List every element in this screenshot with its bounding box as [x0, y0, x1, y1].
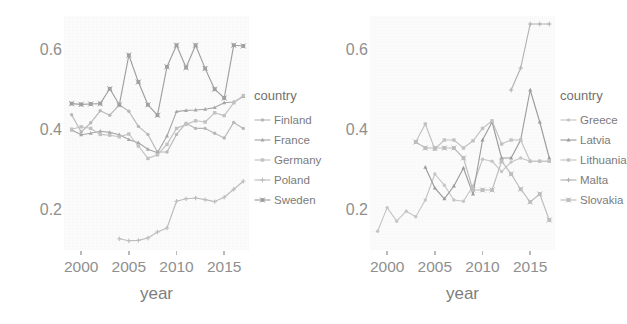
legend-item-poland[interactable]: Poland	[254, 170, 308, 190]
x-axis-tick-mark	[482, 251, 484, 255]
y-axis-tick-label: 0.4	[346, 121, 368, 139]
x-axis-title: year	[64, 284, 249, 304]
square-cross-marker-icon	[560, 193, 577, 207]
triangle-marker-icon	[254, 133, 271, 147]
legend-item-label: Malta	[580, 174, 608, 186]
triangle-marker-icon	[560, 133, 577, 147]
x-axis-tick-mark	[434, 251, 436, 255]
x-axis-tick-mark	[386, 251, 388, 255]
y-axis-tick-labels: 0.60.40.2	[330, 16, 370, 250]
x-axis-tick-labels: 2000200520102015	[370, 258, 555, 282]
x-axis-tick-label: 2010	[465, 258, 499, 276]
x-axis-tick-label: 2015	[513, 258, 547, 276]
x-axis-title: year	[370, 284, 555, 304]
x-axis-tick-mark	[223, 251, 225, 255]
x-axis-tick-label: 2015	[207, 258, 241, 276]
x-axis-tick-label: 2005	[418, 258, 452, 276]
legend-items: GreeceLatviaLithuaniaMaltaSlovakia	[560, 110, 614, 210]
plus-marker-icon	[254, 173, 271, 187]
plot-area	[64, 16, 249, 250]
x-axis-tick-label: 2000	[64, 258, 98, 276]
legend-item-label: Slovakia	[580, 194, 623, 206]
legend: country FinlandFranceGermanyPolandSweden	[254, 88, 308, 210]
x-axis-tick-mark	[529, 251, 531, 255]
legend-item-label: Latvia	[580, 134, 611, 146]
legend-item-france[interactable]: France	[254, 130, 308, 150]
legend: country GreeceLatviaLithuaniaMaltaSlovak…	[560, 88, 614, 210]
legend-item-greece[interactable]: Greece	[560, 110, 614, 130]
legend-item-latvia[interactable]: Latvia	[560, 130, 614, 150]
x-axis-tick-mark	[128, 251, 130, 255]
legend-item-label: Lithuania	[580, 154, 627, 166]
legend-item-label: Poland	[274, 174, 310, 186]
legend-items: FinlandFranceGermanyPolandSweden	[254, 110, 308, 210]
legend-item-label: France	[274, 134, 310, 146]
legend-item-finland[interactable]: Finland	[254, 110, 308, 130]
legend-item-slovakia[interactable]: Slovakia	[560, 190, 614, 210]
plus-marker-icon	[560, 173, 577, 187]
legend-item-malta[interactable]: Malta	[560, 170, 614, 190]
left-panel: Proportion of female MEPs 0.60.40.2 2000…	[0, 0, 306, 324]
square-cross-marker-icon	[254, 193, 271, 207]
circle-marker-icon	[560, 113, 577, 127]
x-axis-tick-mark	[176, 251, 178, 255]
x-axis-tick-labels: 2000200520102015	[64, 258, 249, 282]
plot-lines	[370, 16, 555, 250]
square-marker-icon	[254, 153, 271, 167]
y-axis-tick-label: 0.2	[346, 201, 368, 219]
x-axis-tick-label: 2000	[370, 258, 404, 276]
legend-item-germany[interactable]: Germany	[254, 150, 308, 170]
circle-marker-icon	[254, 113, 271, 127]
plot-area	[370, 16, 555, 250]
legend-item-lithuania[interactable]: Lithuania	[560, 150, 614, 170]
y-axis-tick-label: 0.6	[40, 41, 62, 59]
legend-item-sweden[interactable]: Sweden	[254, 190, 308, 210]
y-axis-tick-label: 0.2	[40, 201, 62, 219]
plot-lines	[64, 16, 249, 250]
y-axis-tick-label: 0.4	[40, 121, 62, 139]
legend-title: country	[560, 88, 614, 103]
x-axis-tick-label: 2010	[159, 258, 193, 276]
x-axis-tick-label: 2005	[112, 258, 146, 276]
x-axis-tick-mark	[80, 251, 82, 255]
square-marker-icon	[560, 153, 577, 167]
y-axis-tick-labels: 0.60.40.2	[24, 16, 64, 250]
legend-title: country	[254, 88, 308, 103]
y-axis-tick-label: 0.6	[346, 41, 368, 59]
right-panel: Proportion of female MEPs 0.60.40.2 2000…	[306, 0, 612, 324]
legend-item-label: Greece	[580, 114, 618, 126]
